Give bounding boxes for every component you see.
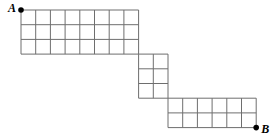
point-b-dot [253, 125, 259, 131]
point-a-dot [18, 7, 24, 13]
grid-block-top [21, 10, 139, 54]
point-a-label: A [7, 1, 16, 15]
grid-block-bottom [168, 98, 256, 127]
point-b-label: B [260, 122, 269, 136]
grid-diagram: AB [0, 0, 271, 140]
grid-block-middle [139, 54, 168, 98]
grid-lines [21, 10, 256, 128]
